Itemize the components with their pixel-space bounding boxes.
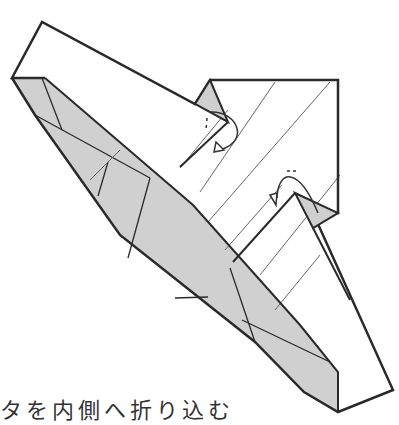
instruction-caption: タを内側へ折り込む xyxy=(0,397,234,425)
